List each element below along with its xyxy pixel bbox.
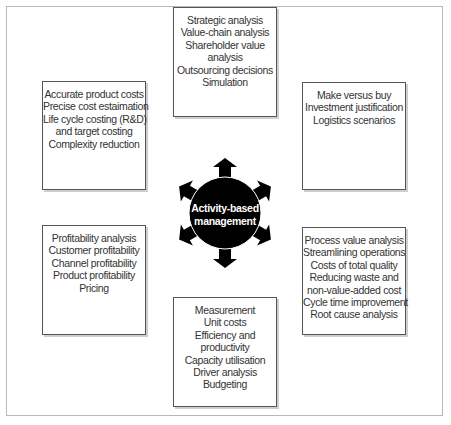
box-line: and target costing	[43, 125, 145, 137]
box-line: Complexity reduction	[43, 138, 145, 150]
box-strategic-analysis: Strategic analysis Value-chain analysis …	[173, 7, 277, 117]
box-line: Simulation	[174, 76, 276, 88]
box-line: Outsourcing decisions	[174, 64, 276, 76]
box-profitability: Profitability analysis Customer profitab…	[42, 225, 146, 335]
box-line: Profitability analysis	[43, 232, 145, 244]
box-line: Product profitability	[43, 269, 145, 281]
box-line: Unit costs	[174, 316, 276, 328]
box-process-value: Process value analysis Streamlining oper…	[302, 227, 406, 335]
center-label: Activity-based management	[175, 202, 275, 227]
box-line: Value-chain analysis	[174, 26, 276, 38]
box-line: Strategic analysis	[174, 14, 276, 26]
box-line: Make versus buy	[303, 89, 405, 101]
center-label-line: Activity-based	[175, 202, 275, 215]
box-make-versus-buy: Make versus buy Investment justification…	[302, 82, 406, 190]
box-line: Measurement	[174, 304, 276, 316]
box-line: Capacity utilisation	[174, 354, 276, 366]
box-line: non-value-added cost	[303, 284, 405, 296]
box-line: Process value analysis	[303, 234, 405, 246]
center-hub: Activity-based management	[175, 158, 275, 268]
box-line: Investment justification	[303, 101, 405, 113]
box-line: Budgeting	[174, 378, 276, 390]
box-line: Root cause analysis	[303, 308, 405, 320]
box-line: Reducing waste and	[303, 271, 405, 283]
box-line: productivity	[174, 341, 276, 353]
box-line: analysis	[174, 51, 276, 63]
box-line: Logistics scenarios	[303, 114, 405, 126]
box-line: Accurate product costs	[43, 88, 145, 100]
box-line: Driver analysis	[174, 366, 276, 378]
box-line: Streamlining operations	[303, 246, 405, 258]
center-label-line: management	[175, 215, 275, 228]
box-line: Life cycle costing (R&D)	[43, 113, 145, 125]
box-line: Channel profitability	[43, 257, 145, 269]
box-line: Precise cost estaimation	[43, 100, 145, 112]
box-line: Customer profitability	[43, 244, 145, 256]
box-line: Pricing	[43, 282, 145, 294]
box-line: Cycle time improvement	[303, 296, 405, 308]
box-product-costs: Accurate product costs Precise cost esta…	[42, 81, 146, 190]
box-line: Shareholder value	[174, 39, 276, 51]
box-line: Costs of total quality	[303, 259, 405, 271]
box-measurement: Measurement Unit costs Efficiency and pr…	[173, 297, 277, 407]
box-line: Efficiency and	[174, 329, 276, 341]
